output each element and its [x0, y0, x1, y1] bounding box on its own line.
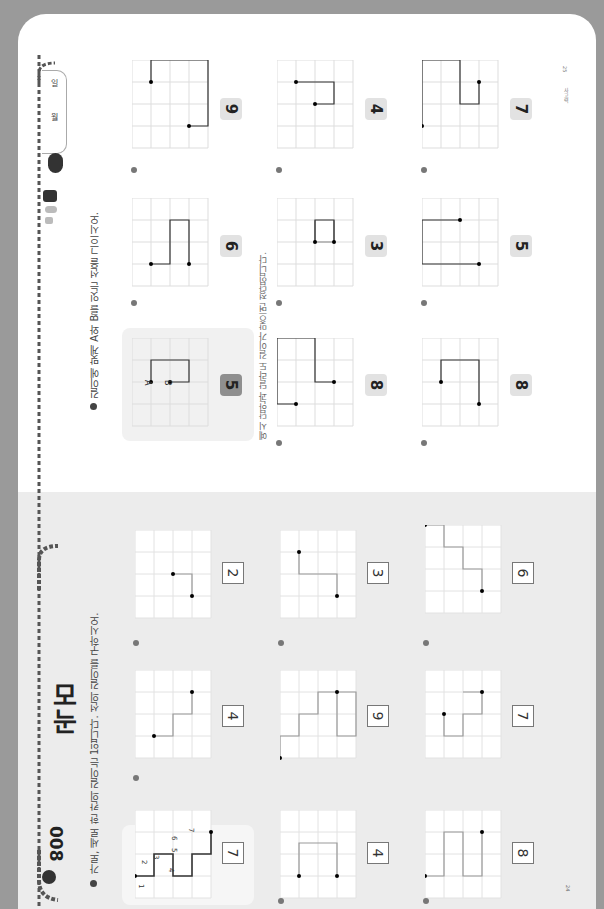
answer-box[interactable]: 9 [367, 705, 389, 727]
instruction-2: 길이에 맞게 A와 B를 잇는 선을 그으시오. [87, 238, 102, 398]
answer-badge: 3 [365, 235, 387, 257]
problem-number-icon [278, 640, 284, 646]
segment-label: 5 [170, 848, 178, 852]
answer-box[interactable]: 6 [512, 562, 534, 584]
problem-grid [135, 530, 215, 625]
problem-grid [422, 338, 502, 433]
problem-number-icon [421, 440, 427, 446]
problem-number-icon [276, 440, 282, 446]
instruction-bullet-icon [90, 403, 97, 410]
spine-dashes [30, 55, 60, 909]
lesson-number: 008 [46, 826, 66, 862]
problem-number-icon [133, 775, 139, 781]
problem-grid [425, 810, 505, 905]
problem-grid [425, 525, 505, 620]
day-label: 일 [48, 79, 59, 87]
badge-icon [43, 190, 57, 202]
problem-number-icon [423, 640, 429, 646]
example-grid [135, 810, 215, 905]
point-a-label: A [143, 380, 152, 385]
answer-badge: 5 [510, 235, 532, 257]
problem-grid [135, 670, 215, 765]
note-text: 예시 답안과 달라도 길이가 맞으면 정답입니다. [256, 280, 269, 440]
segment-label: 3 [152, 855, 160, 859]
answer-badge: 8 [365, 374, 387, 396]
right-page-number: 25 [562, 66, 568, 72]
left-page-number: 24 [565, 885, 571, 891]
answer-box[interactable]: 4 [222, 705, 244, 727]
instruction-1: 가로, 세로 한 칸의 길이는 1입니다. 선의 길이를 구하시오. [87, 622, 102, 874]
segment-label: 2 [140, 860, 148, 864]
segment-label: 6 [170, 836, 178, 840]
segment-label: 7 [187, 828, 195, 832]
problem-number-icon [133, 640, 139, 646]
problem-grid [132, 198, 212, 293]
segment-label: 1 [137, 884, 145, 888]
answer-box[interactable]: 3 [367, 562, 389, 584]
problem-grid [422, 60, 502, 155]
problem-number-icon [131, 167, 137, 173]
problem-grid [132, 60, 212, 155]
problem-grid [425, 670, 505, 765]
problem-number-icon [278, 898, 284, 904]
problem-grid [277, 198, 357, 293]
answer-box[interactable]: 4 [367, 842, 389, 864]
answer-badge: 8 [510, 374, 532, 396]
segment-label: 4 [167, 868, 175, 872]
problem-grid [277, 338, 357, 433]
left-header-curve [30, 540, 70, 590]
problem-number-icon [276, 300, 282, 306]
example-answer-badge: 5 [220, 374, 242, 396]
answer-badge: 4 [365, 98, 387, 120]
example-grid [132, 338, 212, 433]
problem-grid [280, 530, 360, 625]
problem-grid [280, 670, 360, 765]
page-title: 모눈 [44, 682, 81, 734]
problem-number-icon [276, 167, 282, 173]
problem-grid [280, 810, 360, 905]
problem-number-icon [421, 167, 427, 173]
answer-box[interactable]: 2 [222, 562, 244, 584]
problem-grid [422, 198, 502, 293]
answer-badge: 9 [220, 98, 242, 120]
answer-badge: 7 [510, 98, 532, 120]
problem-number-icon [131, 300, 137, 306]
month-label: 월 [48, 113, 59, 121]
point-b-label: B [163, 380, 172, 386]
answer-badge: 6 [220, 235, 242, 257]
problem-number-icon [423, 898, 429, 904]
character-icon [48, 153, 63, 173]
lesson-icon [42, 870, 56, 884]
date-tab[interactable]: 일 월 [42, 70, 67, 154]
right-page-label: 사고력 [562, 88, 569, 103]
answer-box[interactable]: 7 [512, 705, 534, 727]
instruction-bullet-icon [90, 880, 97, 887]
problem-grid [277, 60, 357, 155]
answer-box[interactable]: 8 [512, 842, 534, 864]
tag-icon [45, 217, 53, 224]
problem-number-icon [421, 300, 427, 306]
tag-icon [45, 206, 57, 213]
example-answer-box: 7 [222, 842, 244, 864]
